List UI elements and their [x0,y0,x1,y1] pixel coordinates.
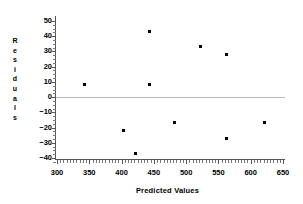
x-tick-label: 400 [107,168,137,177]
y-minor-tick-mark [53,59,56,60]
x-minor-tick-mark [176,160,177,163]
x-minor-tick-mark [231,160,232,163]
y-tick-label: −20 [28,124,52,132]
x-minor-tick-mark [170,160,171,163]
x-minor-tick-mark [209,160,210,163]
y-axis-label-letter: R [8,36,22,46]
y-tick-label: 0 [28,93,52,101]
x-minor-tick-mark [76,160,77,163]
y-minor-tick-mark [53,29,56,30]
x-tick-mark [154,160,155,164]
x-minor-tick-mark [267,160,268,163]
x-minor-tick-mark [63,160,64,163]
data-point [263,121,266,124]
x-minor-tick-mark [212,160,213,163]
x-tick-label: 350 [74,168,104,177]
y-tick-mark [52,112,56,113]
y-axis-label-letter: l [8,103,22,113]
y-tick-mark [52,97,56,98]
x-tick-label: 500 [171,168,201,177]
y-axis-label-letter: u [8,84,22,94]
y-minor-tick-mark [53,139,56,140]
x-minor-tick-mark [144,160,145,163]
x-minor-tick-mark [196,160,197,163]
x-minor-tick-mark [183,160,184,163]
x-minor-tick-mark [235,160,236,163]
x-minor-tick-mark [80,160,81,163]
y-minor-tick-mark [53,63,56,64]
x-minor-tick-mark [83,160,84,163]
y-minor-tick-mark [53,131,56,132]
x-tick-label: 550 [203,168,233,177]
x-minor-tick-mark [264,160,265,163]
y-tick-label: 10 [28,78,52,86]
x-minor-tick-mark [160,160,161,163]
x-minor-tick-mark [254,160,255,163]
x-tick-label: 450 [139,168,169,177]
y-minor-tick-mark [53,25,56,26]
y-tick-mark [52,21,56,22]
y-axis-label-letter: s [8,55,22,65]
x-tick-mark [89,160,90,164]
x-minor-tick-mark [180,160,181,163]
x-minor-tick-mark [102,160,103,163]
x-minor-tick-mark [157,160,158,163]
x-tick-label: 300 [42,168,72,177]
y-tick-label: 50 [28,17,52,25]
data-point [225,137,228,140]
x-minor-tick-mark [173,160,174,163]
y-minor-tick-mark [53,116,56,117]
x-minor-tick-mark [225,160,226,163]
x-minor-tick-mark [109,160,110,163]
x-tick-mark [186,160,187,164]
y-minor-tick-mark [53,44,56,45]
data-point [148,30,151,33]
y-minor-tick-mark [53,162,56,163]
x-minor-tick-mark [202,160,203,163]
x-minor-tick-mark [86,160,87,163]
data-point [83,83,86,86]
x-minor-tick-mark [60,160,61,163]
y-tick-label: 30 [28,47,52,55]
x-minor-tick-mark [138,160,139,163]
x-minor-tick-mark [277,160,278,163]
y-minor-tick-mark [53,90,56,91]
y-tick-label: −40 [28,154,52,162]
x-tick-label: 650 [268,168,298,177]
x-minor-tick-mark [244,160,245,163]
data-point [134,152,137,155]
y-tick-mark [52,36,56,37]
residual-plot: Residuals 50403020100−10−20−30−40 300350… [0,0,303,204]
y-axis-label-letter: i [8,65,22,75]
y-tick-label: 20 [28,63,52,71]
x-minor-tick-mark [273,160,274,163]
y-tick-label: 40 [28,32,52,40]
x-minor-tick-mark [118,160,119,163]
x-tick-label: 600 [236,168,266,177]
x-minor-tick-mark [167,160,168,163]
y-minor-tick-mark [53,74,56,75]
x-tick-mark [57,160,58,164]
x-minor-tick-mark [73,160,74,163]
y-minor-tick-mark [53,70,56,71]
x-minor-tick-mark [280,160,281,163]
x-minor-tick-mark [147,160,148,163]
data-point [199,45,202,48]
x-minor-tick-mark [93,160,94,163]
x-tick-mark [218,160,219,164]
x-minor-tick-mark [222,160,223,163]
x-minor-tick-mark [96,160,97,163]
x-minor-tick-mark [199,160,200,163]
x-minor-tick-mark [128,160,129,163]
x-minor-tick-mark [257,160,258,163]
x-minor-tick-mark [134,160,135,163]
y-tick-mark [52,82,56,83]
data-point [122,129,125,132]
x-minor-tick-mark [193,160,194,163]
y-minor-tick-mark [53,109,56,110]
y-minor-tick-mark [53,150,56,151]
y-axis-label-letter: s [8,113,22,123]
y-minor-tick-mark [53,93,56,94]
y-tick-mark [52,51,56,52]
y-minor-tick-mark [53,135,56,136]
